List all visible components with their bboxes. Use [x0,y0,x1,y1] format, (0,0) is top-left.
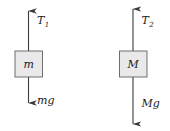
weight-label-right: Mg [141,97,160,110]
tension-label-right: T2 [142,14,155,29]
free-body-diagram-figure: m T1 mg [0,0,170,131]
tension-subscript-right: 2 [148,21,154,29]
free-body-diagram-left: m T1 mg [0,0,85,131]
tension-label-left: T1 [37,14,49,29]
weight-label-left: mg [37,94,54,107]
free-body-diagram-right: M T2 Mg [85,0,170,131]
tension-subscript-left: 1 [45,21,49,29]
mass-label-left: m [23,58,33,71]
mass-label-right: M [127,58,140,71]
